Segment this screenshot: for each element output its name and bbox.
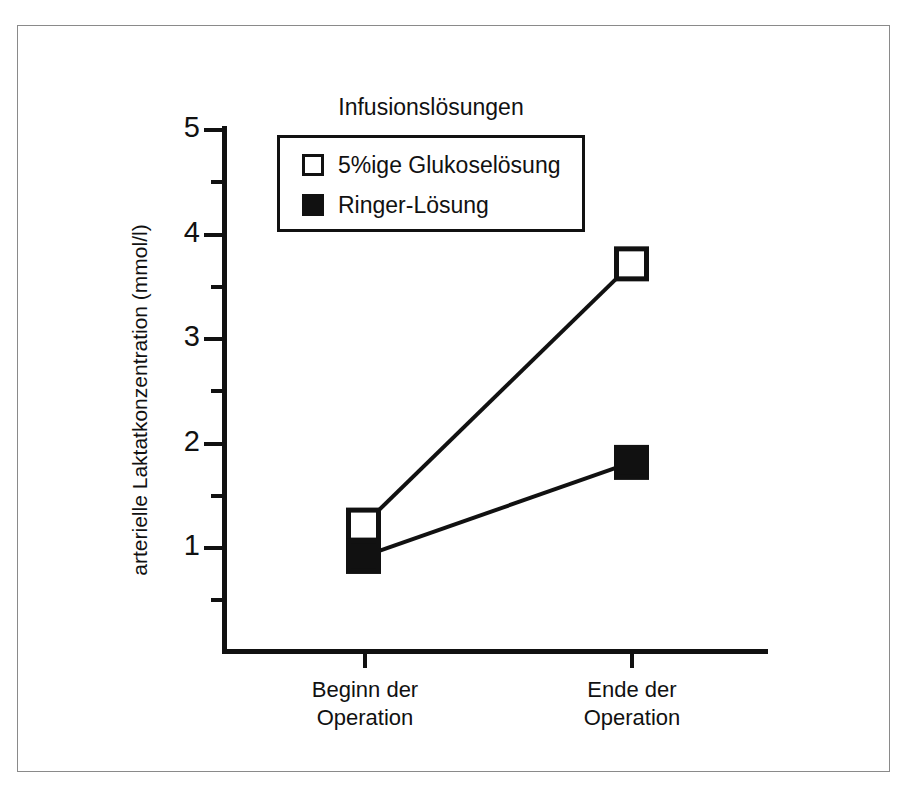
x-axis-line (222, 649, 768, 654)
y-tick-label-1: 1 (164, 531, 200, 560)
data-point-marker-s1-p1 (617, 447, 647, 477)
y-tick-major-5 (204, 128, 224, 132)
y-tick-major-1 (204, 546, 224, 550)
y-tick-minor-2-5 (211, 389, 224, 393)
y-tick-label-2: 2 (164, 427, 200, 456)
series-line-0 (364, 264, 632, 525)
y-tick-major-2 (204, 442, 224, 446)
y-tick-major-4 (204, 233, 224, 237)
y-tick-minor-4-5 (211, 180, 224, 184)
x-tick-1 (363, 652, 367, 668)
y-tick-label-4: 4 (164, 218, 200, 247)
legend-entry-glukose: 5%ige Glukoselösung (302, 150, 560, 180)
y-tick-minor-3-5 (211, 285, 224, 289)
x-tick-label-2: Ende der Operation (522, 676, 742, 731)
y-tick-major-3 (204, 337, 224, 341)
legend-entry-ringer: Ringer-Lösung (302, 190, 489, 220)
y-tick-label-5: 5 (164, 113, 200, 142)
data-point-marker-s0-p0 (349, 510, 379, 540)
x-tick-label-1-line2: Operation (255, 704, 475, 732)
x-tick-2 (630, 652, 634, 668)
series-line-1 (364, 462, 632, 556)
filled-square-icon (302, 194, 324, 216)
x-tick-label-1-line1: Beginn der (255, 676, 475, 704)
data-point-marker-s0-p1 (617, 249, 647, 279)
y-tick-minor-1-5 (211, 494, 224, 498)
y-tick-label-3: 3 (164, 322, 200, 351)
plot-area: 5 4 3 2 1 arterielle Laktatkonzentration… (0, 0, 905, 789)
legend-label-ringer: Ringer-Lösung (338, 192, 489, 219)
y-axis-title: arterielle Laktatkonzentration (mmol/l) (128, 185, 152, 615)
legend-title: Infusionslösungen (277, 94, 585, 121)
open-square-icon (302, 154, 324, 176)
x-tick-label-1: Beginn der Operation (255, 676, 475, 731)
x-tick-label-2-line2: Operation (522, 704, 742, 732)
legend-box: 5%ige Glukoselösung Ringer-Lösung (277, 135, 585, 232)
y-tick-minor-0-5 (211, 598, 224, 602)
figure-canvas: 5 4 3 2 1 arterielle Laktatkonzentration… (0, 0, 905, 789)
data-point-marker-s1-p0 (349, 541, 379, 571)
x-tick-label-2-line1: Ende der (522, 676, 742, 704)
legend-label-glukose: 5%ige Glukoselösung (338, 152, 560, 179)
